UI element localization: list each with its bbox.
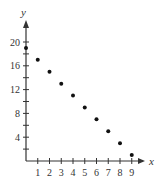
data-point	[95, 117, 99, 121]
ticks: 12345678948121620	[10, 37, 134, 179]
y-tick-label: 16	[10, 60, 20, 71]
x-tick-label: 3	[59, 167, 64, 178]
data-point	[83, 105, 87, 109]
y-arrow-icon	[23, 20, 29, 28]
x-tick-label: 9	[129, 167, 134, 178]
y-axis-label: y	[20, 6, 26, 18]
data-point	[36, 58, 40, 62]
data-point	[48, 70, 52, 74]
y-tick-label: 4	[15, 132, 20, 143]
data-point	[118, 141, 122, 145]
data-point	[106, 129, 110, 133]
x-tick-label: 7	[106, 167, 111, 178]
axes	[23, 20, 145, 164]
data-point	[24, 46, 28, 50]
data-point	[71, 94, 75, 98]
x-tick-label: 5	[82, 167, 87, 178]
x-axis-label: x	[148, 155, 154, 167]
data-point	[130, 153, 134, 157]
x-tick-label: 8	[118, 167, 123, 178]
scatter-chart: 12345678948121620 y x	[0, 0, 161, 185]
x-tick-label: 1	[35, 167, 40, 178]
y-tick-label: 8	[15, 108, 20, 119]
data-points	[24, 46, 134, 157]
x-tick-label: 2	[47, 167, 52, 178]
y-tick-label: 20	[10, 37, 20, 48]
y-tick-label: 12	[10, 84, 20, 95]
x-tick-label: 4	[71, 167, 76, 178]
x-arrow-icon	[138, 158, 145, 164]
data-point	[59, 82, 63, 86]
x-tick-label: 6	[94, 167, 99, 178]
